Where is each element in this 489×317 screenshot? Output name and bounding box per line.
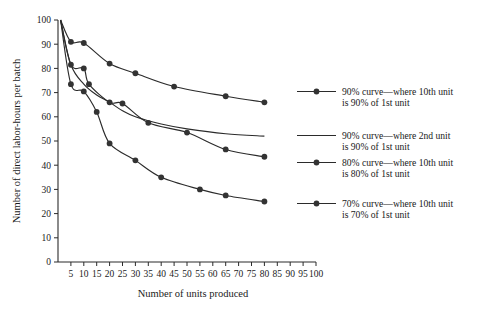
y-tick-label: 40 [42, 161, 52, 171]
anno-90-2nd: 90% curve—where 2nd unitis 90% of 1st un… [297, 130, 451, 152]
data-point [262, 99, 268, 105]
learning-curve-chart: 0102030405060708090100 Number of direct … [0, 0, 489, 317]
y-tick-label: 10 [42, 233, 52, 243]
data-point [262, 199, 268, 205]
y-tick-label: 20 [42, 209, 52, 219]
annotation-line-2: is 90% of 1st unit [342, 97, 410, 108]
annotation-line-2: is 90% of 1st unit [342, 141, 410, 152]
x-tick-label: 55 [195, 269, 205, 279]
data-point [184, 130, 190, 136]
data-point [107, 141, 113, 147]
x-tick-label: 95 [298, 269, 308, 279]
x-tick-label: 15 [92, 269, 102, 279]
x-tick-label: 25 [118, 269, 128, 279]
y-tick-label: 80 [42, 64, 52, 74]
x-tick-label: 90 [285, 269, 295, 279]
data-point [133, 157, 139, 163]
x-tick-label: 60 [208, 269, 218, 279]
data-point [158, 174, 164, 180]
annotation-marker [314, 201, 320, 207]
x-tick-label: 45 [169, 269, 179, 279]
annotation-line-1: 80% curve—where 10th unit [342, 157, 453, 168]
data-point [81, 40, 87, 46]
x-axis-ticks [71, 262, 316, 266]
annotation-line-1: 70% curve—where 10th unit [342, 198, 453, 209]
y-tick-label: 100 [37, 15, 52, 25]
y-axis-group: 0102030405060708090100 Number of direct … [11, 15, 58, 267]
data-point [81, 66, 87, 72]
series-2 [61, 20, 268, 160]
x-tick-label: 20 [105, 269, 115, 279]
x-tick-label: 5 [69, 269, 74, 279]
anno-80-10th: 80% curve—where 10th unitis 80% of 1st u… [297, 157, 453, 179]
x-tick-label: 75 [247, 269, 257, 279]
data-point [68, 81, 74, 87]
series-line [61, 20, 265, 136]
x-tick-label: 70 [234, 269, 244, 279]
x-tick-label: 35 [144, 269, 154, 279]
data-point [223, 147, 229, 153]
anno-70-10th: 70% curve—where 10th unitis 70% of 1st u… [297, 198, 453, 220]
data-point [81, 88, 87, 94]
series-line [61, 20, 265, 202]
data-point [197, 187, 203, 193]
x-axis-group: 5101520253035404550556065707580859095100… [58, 262, 323, 299]
y-tick-label: 50 [42, 136, 52, 146]
series-3 [61, 20, 268, 204]
annotation-line-2: is 80% of 1st unit [342, 168, 410, 179]
y-tick-label: 0 [46, 257, 51, 267]
x-tick-label: 85 [273, 269, 283, 279]
annotation-line-1: 90% curve—where 2nd unit [342, 130, 451, 141]
data-point [107, 99, 113, 105]
annotation-layer: 90% curve—where 10th unitis 90% of 1st u… [297, 86, 453, 220]
y-tick-label: 60 [42, 112, 52, 122]
x-tick-label: 80 [260, 269, 270, 279]
annotation-line-1: 90% curve—where 10th unit [342, 86, 453, 97]
data-point [223, 93, 229, 99]
y-axis-title: Number of direct labor-hours per batch [11, 58, 22, 223]
data-point [223, 193, 229, 199]
data-point [171, 84, 177, 90]
y-tick-label: 30 [42, 185, 52, 195]
x-tick-label: 50 [182, 269, 192, 279]
chart-canvas: 0102030405060708090100 Number of direct … [0, 0, 489, 317]
annotation-marker [314, 89, 320, 95]
x-tick-label: 65 [221, 269, 231, 279]
y-tick-label: 70 [42, 88, 52, 98]
series-1 [61, 20, 265, 136]
data-point [262, 154, 268, 160]
series-line [61, 20, 265, 102]
annotation-line-2: is 70% of 1st unit [342, 209, 410, 220]
x-axis-tick-labels: 5101520253035404550556065707580859095100 [69, 269, 324, 279]
data-point [133, 70, 139, 76]
x-tick-label: 40 [156, 269, 166, 279]
series-layer [61, 20, 268, 204]
x-tick-label: 10 [79, 269, 89, 279]
x-axis-title: Number of units produced [138, 288, 249, 299]
data-point [86, 81, 92, 87]
data-point [120, 101, 126, 107]
data-point [107, 61, 113, 67]
y-axis-ticks [54, 20, 58, 262]
annotation-marker [314, 160, 320, 166]
x-tick-label: 30 [131, 269, 141, 279]
series-0 [61, 20, 268, 105]
y-axis-tick-labels: 0102030405060708090100 [37, 15, 52, 267]
anno-90-10th: 90% curve—where 10th unitis 90% of 1st u… [297, 86, 453, 108]
y-tick-label: 90 [42, 40, 52, 50]
x-tick-label: 100 [309, 269, 324, 279]
data-point [68, 62, 74, 68]
series-line [61, 20, 265, 157]
data-point [145, 120, 151, 126]
data-point [94, 109, 100, 115]
data-point [68, 39, 74, 45]
